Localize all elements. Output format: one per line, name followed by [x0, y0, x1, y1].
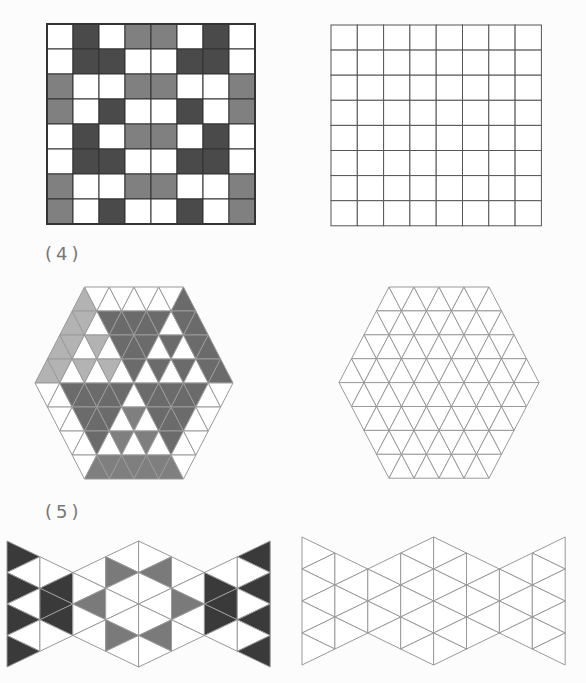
bowtie-triangle-blank[interactable]: [0, 0, 586, 683]
bowtie-puzzle-blank: [0, 0, 586, 683]
